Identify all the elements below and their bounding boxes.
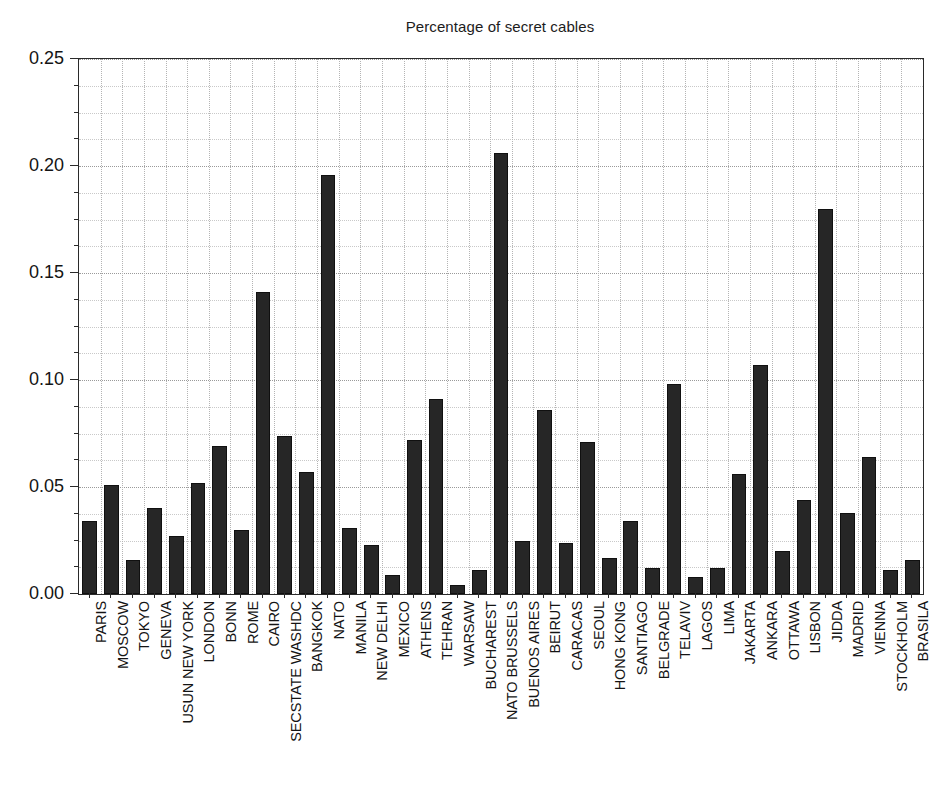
x-axis-tick-label: SANTIAGO <box>635 601 650 675</box>
x-axis-tick <box>197 593 198 598</box>
x-axis-tick <box>846 593 847 598</box>
x-axis-tick <box>305 593 306 598</box>
x-axis-tick <box>781 593 782 598</box>
x-axis-tick <box>132 593 133 598</box>
chart-title: Percentage of secret cables <box>78 18 922 35</box>
x-axis-tick-label: BANGKOK <box>310 601 325 672</box>
x-axis-tick-label: NATO BRUSSELS <box>505 601 520 720</box>
bar <box>688 577 703 594</box>
bar <box>169 536 184 594</box>
x-axis-tick <box>868 593 869 598</box>
x-axis-tick <box>262 593 263 598</box>
x-axis-tick-label: BONN <box>224 601 239 643</box>
x-axis-tick-label: TEHRAN <box>440 601 455 660</box>
bar <box>515 541 530 595</box>
x-axis-tick-label: ROME <box>246 601 261 644</box>
x-axis-tick <box>175 593 176 598</box>
y-axis-tick-label: 0.05 <box>29 477 64 495</box>
bar <box>602 558 617 594</box>
x-axis-tick <box>565 593 566 598</box>
bar <box>537 410 552 594</box>
x-axis-tick <box>110 593 111 598</box>
x-axis-tick-label: GENEVA <box>159 601 174 660</box>
x-axis-tick <box>716 593 717 598</box>
x-axis-tick-label: TELAVIV <box>678 601 693 659</box>
bar <box>645 568 660 594</box>
y-axis-tick <box>70 272 78 273</box>
x-axis-tick-label: HONG KONG <box>613 601 628 690</box>
bar <box>775 551 790 594</box>
x-axis: PARISMOSCOWTOKYOGENEVAUSUN NEW YORKLONDO… <box>78 593 922 791</box>
bar <box>104 485 119 594</box>
x-axis-tick-label: LAGOS <box>700 601 715 650</box>
y-axis-tick <box>70 58 78 59</box>
x-axis-tick <box>219 593 220 598</box>
x-axis-tick <box>803 593 804 598</box>
bar <box>234 530 249 594</box>
x-axis-tick <box>673 593 674 598</box>
bar <box>862 457 877 594</box>
y-axis-tick-label: 0.00 <box>29 584 64 602</box>
bar <box>147 508 162 594</box>
x-axis-tick-label: NATO <box>332 601 347 640</box>
x-axis-tick <box>240 593 241 598</box>
y-axis-tick <box>70 486 78 487</box>
y-axis-tick <box>70 593 78 594</box>
bar <box>212 446 227 594</box>
bar <box>191 483 206 594</box>
bar <box>277 436 292 594</box>
y-axis-tick <box>70 165 78 166</box>
bar <box>905 560 920 594</box>
x-axis-tick <box>543 593 544 598</box>
bar <box>797 500 812 594</box>
x-axis-tick-label: SEOUL <box>592 601 607 650</box>
bar <box>623 521 638 594</box>
bar <box>82 521 97 594</box>
x-axis-tick <box>760 593 761 598</box>
bar <box>559 543 574 594</box>
x-axis-tick-label: VIENNA <box>873 601 888 654</box>
x-axis-tick-label: CARACAS <box>570 601 585 670</box>
x-axis-tick <box>911 593 912 598</box>
x-axis-tick <box>608 593 609 598</box>
x-axis-tick-label: MANILA <box>354 601 369 654</box>
x-axis-tick <box>738 593 739 598</box>
x-axis-tick-label: MADRID <box>851 601 866 658</box>
bar <box>494 153 509 594</box>
bar <box>429 399 444 594</box>
x-axis-tick-label: BUCHAREST <box>484 601 499 690</box>
bar <box>385 575 400 594</box>
x-axis-tick-label: LONDON <box>202 601 217 662</box>
y-axis-tick-label: 0.15 <box>29 263 64 281</box>
bar <box>321 175 336 594</box>
x-axis-tick <box>327 593 328 598</box>
x-axis-tick <box>392 593 393 598</box>
bar <box>710 568 725 594</box>
x-axis-tick-label: STOCKHOLM <box>895 601 910 692</box>
y-axis-tick-label: 0.20 <box>29 156 64 174</box>
y-axis-tick-label: 0.10 <box>29 370 64 388</box>
x-axis-tick-label: LIMA <box>722 601 737 634</box>
bar <box>472 570 487 594</box>
bar <box>256 292 271 594</box>
x-axis-tick <box>435 593 436 598</box>
y-axis: 0.000.050.100.150.200.25 <box>0 58 78 593</box>
bar <box>364 545 379 594</box>
bar <box>883 570 898 594</box>
x-axis-tick <box>89 593 90 598</box>
bar <box>818 209 833 594</box>
x-axis-tick <box>651 593 652 598</box>
x-axis-tick <box>890 593 891 598</box>
x-axis-tick-label: JAKARTA <box>743 601 758 664</box>
x-axis-tick <box>825 593 826 598</box>
x-axis-tick-label: ANKARA <box>765 601 780 660</box>
x-axis-tick <box>284 593 285 598</box>
x-axis-tick-label: TOKYO <box>137 601 152 651</box>
x-axis-tick-label: BRASILA <box>916 601 931 662</box>
x-axis-tick <box>478 593 479 598</box>
y-axis-tick <box>70 379 78 380</box>
plot-area <box>78 58 924 595</box>
x-axis-tick <box>370 593 371 598</box>
bar <box>667 384 682 594</box>
x-axis-tick-label: ATHENS <box>419 601 434 658</box>
